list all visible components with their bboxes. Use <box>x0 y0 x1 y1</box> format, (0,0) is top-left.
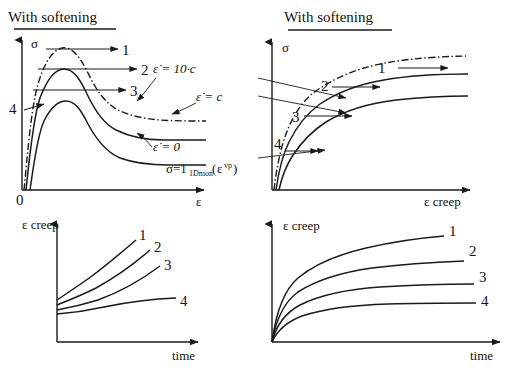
top-right-incoming-arrow-3 <box>258 96 346 113</box>
bottom-left-curve-3 <box>57 266 160 310</box>
bottom-right-curve-label-4: 4 <box>481 293 489 309</box>
diagram-svg: With softening σ 0 ε 1 2 3 4 <box>0 0 529 375</box>
annotation-rate-10c-leader <box>137 78 156 101</box>
bottom-right-curve-2 <box>272 261 464 342</box>
top-right-curve-label-1: 1 <box>378 60 386 76</box>
top-left-curve-label-2: 2 <box>141 62 149 78</box>
top-right-incoming-arrow-2 <box>258 78 346 98</box>
annotation-rate-10c: ε̇ = 10·c <box>153 61 196 76</box>
top-right-curve-1 <box>274 56 466 190</box>
bottom-left-curve-label-4: 4 <box>180 293 188 309</box>
annotation-rate-0: ε̇ = 0 <box>153 139 180 154</box>
bottom-left-curve-label-1: 1 <box>139 227 147 243</box>
top-left-curve-label-4: 4 <box>9 101 17 117</box>
top-right-y-axis-label: σ <box>282 40 289 55</box>
bottom-left-curve-2 <box>57 250 150 305</box>
bottom-left-x-axis-label: time <box>172 348 195 363</box>
top-left-curve-label-3: 3 <box>130 83 138 99</box>
top-left-curve-label-1: 1 <box>122 42 130 58</box>
bottom-right-curve-3 <box>272 284 474 342</box>
top-right-curve-label-4: 4 <box>274 136 282 152</box>
equation-superscript: vp <box>224 161 232 170</box>
equation-paren-close: ) <box>233 161 237 176</box>
panel-bottom-left: ε creep time 1 2 3 4 <box>22 217 198 363</box>
panel-top-right: With softening σ ε creep 1 2 3 <box>258 9 470 209</box>
panel-top-left: With softening σ 0 ε 1 2 3 4 <box>8 9 237 209</box>
top-right-title: With softening <box>284 9 373 25</box>
bottom-left-curve-label-2: 2 <box>154 239 162 255</box>
top-left-x-axis-label: ε <box>196 194 202 209</box>
constitutive-equation: σ=1 1Dmon ( ε vp ) <box>166 161 237 178</box>
bottom-right-curve-label-3: 3 <box>479 269 487 285</box>
bottom-left-curve-label-3: 3 <box>164 257 172 273</box>
top-left-y-axis-label: σ <box>31 36 38 51</box>
top-right-curve-label-2: 2 <box>321 78 329 94</box>
top-right-curve-3 <box>279 96 468 190</box>
top-right-x-axis-label: ε creep <box>424 194 461 209</box>
figure-root: With softening σ 0 ε 1 2 3 4 <box>0 0 529 375</box>
top-left-origin-label: 0 <box>16 192 24 208</box>
bottom-right-y-axis-label: ε creep <box>283 218 320 233</box>
bottom-left-y-axis-label: ε creep <box>22 217 59 232</box>
bottom-right-curve-label-2: 2 <box>469 243 477 259</box>
annotation-rate-c: ε̇ = c <box>196 89 222 104</box>
equation-lhs: σ=1 <box>166 161 187 176</box>
panel-bottom-right: ε creep time 1 2 3 4 <box>272 218 500 363</box>
bottom-right-curve-label-1: 1 <box>449 223 457 239</box>
equation-argument: ε <box>217 161 223 176</box>
equation-paren-open: ( <box>212 161 216 176</box>
top-right-curve-2 <box>276 74 468 190</box>
top-left-title: With softening <box>8 9 97 25</box>
bottom-right-curve-4 <box>272 303 476 342</box>
annotation-rate-c-leader <box>172 103 196 114</box>
equation-subscript: 1Dmon <box>189 169 213 178</box>
bottom-right-x-axis-label: time <box>470 348 493 363</box>
top-right-curve-label-3: 3 <box>292 109 300 125</box>
